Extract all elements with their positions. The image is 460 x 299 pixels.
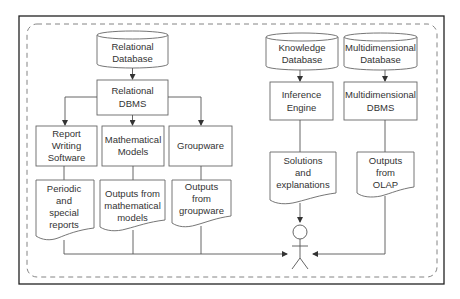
relational-database-node: Relational Database [97,31,168,68]
knowledge-database-node: Knowledge Database [266,33,338,70]
node-label: Periodic [47,183,82,194]
node-label: models [117,212,148,223]
node-label: reports [49,219,79,230]
node-label: Outputs from [105,188,160,199]
node-label: Multidimensional [345,42,416,53]
node-label: special [49,207,79,218]
node-label: from [192,193,211,204]
node-label: Relational [111,41,153,52]
solutions-explanations-document: Solutions and explanations [270,152,336,204]
node-label: and [295,167,311,178]
node-label: Engine [287,102,317,113]
outputs-groupware-document: Outputs from groupware [172,180,231,227]
node-label: Report [52,128,81,139]
node-label: groupware [179,205,224,216]
node-label: mathematical [104,200,161,211]
node-label: OLAP [373,179,398,190]
groupware-node: Groupware [169,126,232,166]
user-actor-icon [292,225,308,269]
node-label: Relational [111,85,153,96]
node-label: Database [282,54,323,65]
outputs-math-models-document: Outputs from mathematical models [100,180,165,231]
node-label: Outputs [185,181,219,192]
multidimensional-database-node: Multidimensional Database [344,33,417,70]
node-label: DBMS [119,98,146,109]
edge-arrow [65,97,97,125]
node-label: Models [118,146,149,157]
outputs-olap-document: Outputs from OLAP [357,152,414,197]
node-label: from [376,167,395,178]
report-writing-software-node: Report Writing Software [36,126,97,166]
node-label: Writing [52,140,81,151]
node-label: and [56,195,72,206]
edge-arrow [168,97,201,125]
node-label: Multidimensional [345,89,416,100]
node-label: DBMS [367,102,394,113]
node-label: Mathematical [105,134,162,145]
node-label: Inference [282,89,322,100]
node-label: explanations [276,179,330,190]
decision-support-diagram: Relational Database Relational DBMS Repo… [0,0,460,299]
node-label: Database [360,54,401,65]
multidimensional-dbms-node: Multidimensional DBMS [344,82,417,120]
mathematical-models-node: Mathematical Models [102,126,164,166]
relational-dbms-node: Relational DBMS [97,80,168,115]
node-label: Database [112,53,153,64]
edge-arrow [313,196,385,254]
node-label: Solutions [283,155,322,166]
node-label: Knowledge [278,42,325,53]
inference-engine-node: Inference Engine [270,82,333,120]
node-label: Outputs [369,155,403,166]
periodic-reports-document: Periodic and special reports [36,180,94,240]
node-label: Groupware [177,140,224,151]
node-label: Software [48,152,86,163]
